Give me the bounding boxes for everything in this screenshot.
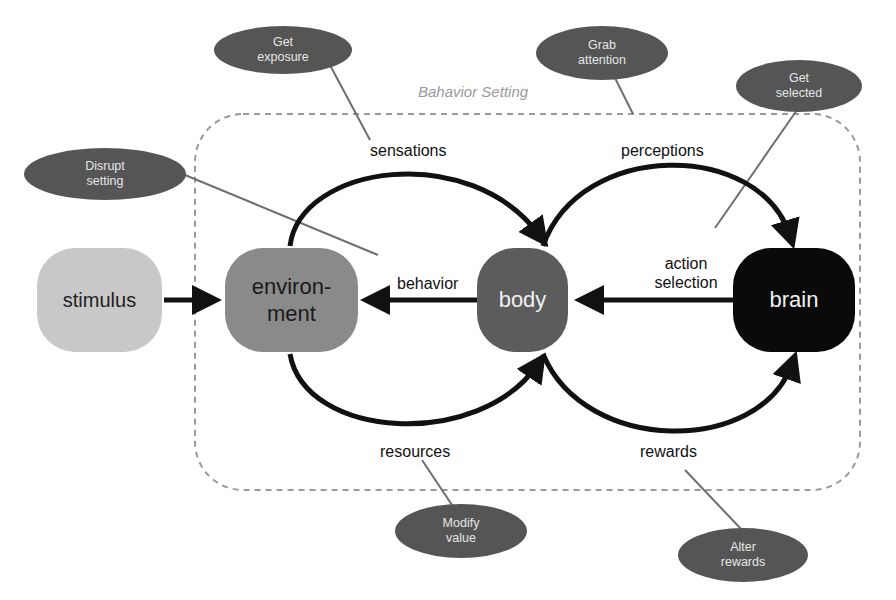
action-selection-label: action selection xyxy=(636,254,736,292)
modify-value-bubble: Modify value xyxy=(395,504,527,558)
body-node: body xyxy=(477,248,568,352)
environment-label-line1: environ- xyxy=(252,273,331,300)
modify-value-line1: Modify xyxy=(443,516,480,531)
get-exposure-line1: Get xyxy=(273,35,293,50)
get-selected-bubble: Get selected xyxy=(736,60,862,112)
resources-label: resources xyxy=(380,442,450,461)
environment-node: environ- ment xyxy=(225,248,358,352)
perceptions-arrow xyxy=(543,165,790,246)
perceptions-label: perceptions xyxy=(621,141,704,160)
sensations-arrow xyxy=(290,174,540,246)
behavior-setting-title: Bahavior Setting xyxy=(418,83,528,100)
action-selection-line1: action xyxy=(636,254,736,273)
disrupt-setting-line2: setting xyxy=(87,174,124,189)
sensations-label: sensations xyxy=(370,141,447,160)
disrupt-setting-line1: Disrupt xyxy=(85,159,125,174)
alter-rewards-line2: rewards xyxy=(721,555,765,570)
body-label: body xyxy=(499,288,547,312)
get-exposure-line2: exposure xyxy=(257,50,308,65)
rewards-arrow xyxy=(543,354,792,431)
alter-rewards-line1: Alter xyxy=(730,540,756,555)
rewards-label: rewards xyxy=(640,442,697,461)
grab-attention-line2: attention xyxy=(578,53,626,68)
modify-value-line2: value xyxy=(446,531,476,546)
get-exposure-bubble: Get exposure xyxy=(214,26,352,74)
stimulus-node: stimulus xyxy=(37,248,162,352)
behavior-label: behavior xyxy=(397,274,458,293)
stimulus-label: stimulus xyxy=(63,288,136,312)
brain-node: brain xyxy=(733,248,855,352)
grab-attention-line1: Grab xyxy=(588,38,616,53)
resources-arrow xyxy=(290,354,538,424)
get-selected-line2: selected xyxy=(776,86,823,101)
disrupt-setting-bubble: Disrupt setting xyxy=(24,148,186,200)
get-selected-line1: Get xyxy=(789,71,809,86)
environment-label-line2: ment xyxy=(267,300,316,327)
grab-attention-bubble: Grab attention xyxy=(536,26,668,80)
brain-label: brain xyxy=(770,288,819,312)
alter-rewards-bubble: Alter rewards xyxy=(678,528,808,582)
action-selection-line2: selection xyxy=(636,273,736,292)
